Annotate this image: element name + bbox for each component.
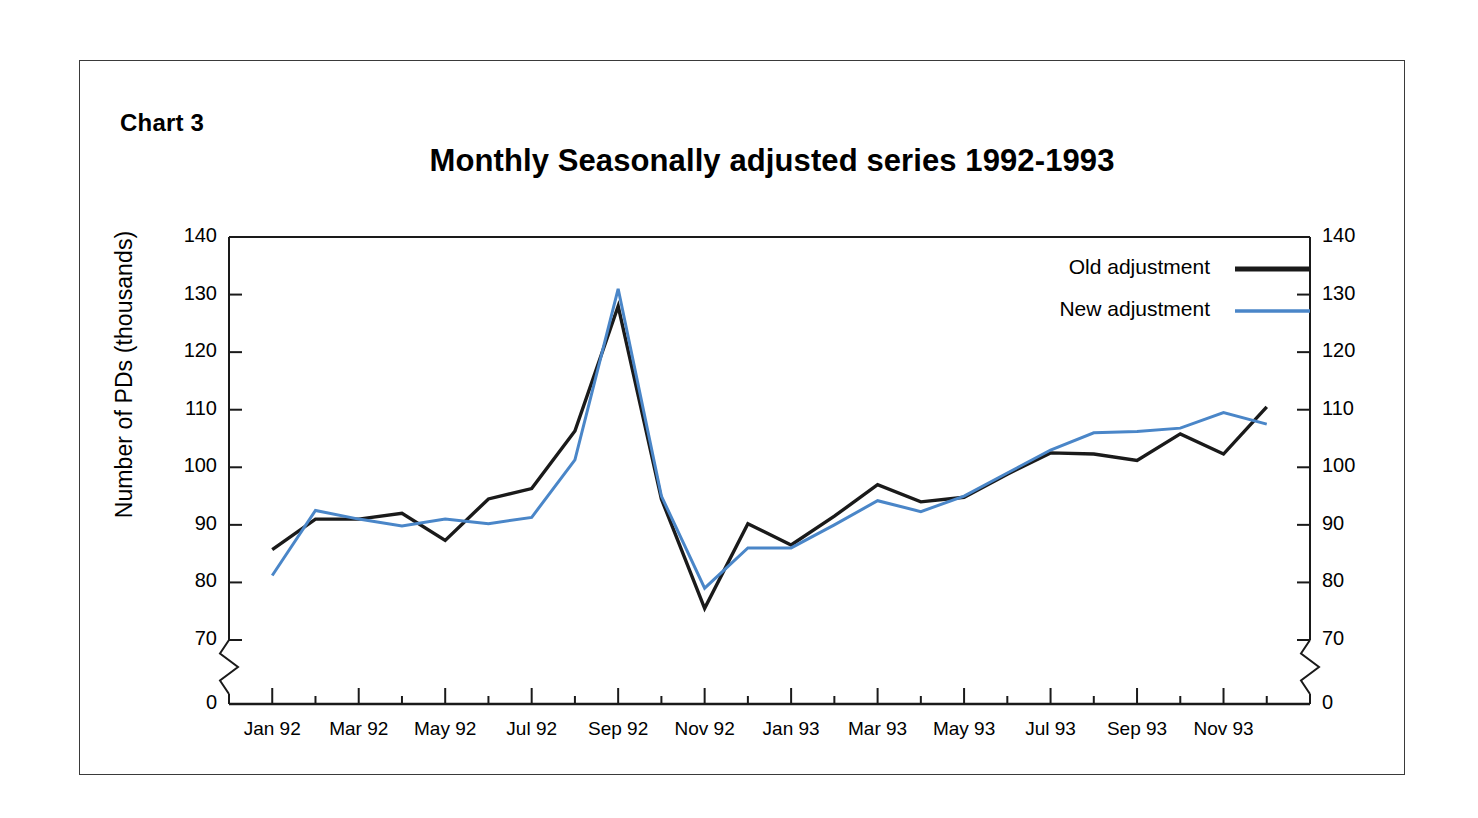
y-axis-tick-label-right-100: 100 — [1322, 454, 1382, 477]
y-axis-tick-label-right-120: 120 — [1322, 339, 1382, 362]
y-axis-tick-label-right-90: 90 — [1322, 512, 1382, 535]
y-axis-tick-label-left-110: 110 — [157, 397, 217, 420]
figure-frame: Chart 3 Monthly Seasonally adjusted seri… — [79, 60, 1405, 775]
x-axis-tick-label-11: Nov 93 — [1164, 718, 1284, 740]
y-axis-tick-label-left-0: 0 — [157, 691, 217, 714]
y-axis-tick-label-left-100: 100 — [157, 454, 217, 477]
y-axis-tick-label-left-120: 120 — [157, 339, 217, 362]
y-axis-tick-label-left-80: 80 — [157, 569, 217, 592]
y-axis-tick-label-left-70: 70 — [157, 627, 217, 650]
plot-area: Number of PDs (thousands) 14014013013012… — [80, 61, 1406, 776]
y-axis-tick-label-right-0: 0 — [1322, 691, 1382, 714]
series-group — [272, 289, 1267, 609]
y-axis-tick-label-right-130: 130 — [1322, 282, 1382, 305]
y-axis-tick-label-right-80: 80 — [1322, 569, 1382, 592]
y-axis-tick-label-right-70: 70 — [1322, 627, 1382, 650]
y-axis-tick-label-left-130: 130 — [157, 282, 217, 305]
y-axis-tick-label-left-90: 90 — [157, 512, 217, 535]
legend-label-1: New adjustment — [910, 297, 1210, 321]
legend-label-0: Old adjustment — [910, 255, 1210, 279]
y-axis-tick-label-left-140: 140 — [157, 224, 217, 247]
y-axis-left-break — [220, 640, 238, 694]
y-axis-right-break — [1301, 640, 1319, 694]
series-line-old-adjustment — [272, 306, 1267, 608]
y-axis-title: Number of PDs (thousands) — [111, 195, 138, 555]
chart-canvas — [80, 61, 1406, 776]
legend-marks-group — [1235, 269, 1310, 311]
y-axis-tick-label-right-110: 110 — [1322, 397, 1382, 420]
series-line-new-adjustment — [272, 289, 1267, 588]
y-axis-tick-label-right-140: 140 — [1322, 224, 1382, 247]
